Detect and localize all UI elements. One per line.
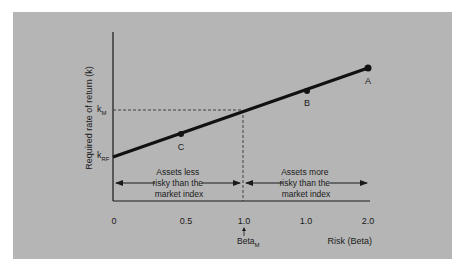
point-a-label: A: [365, 76, 371, 86]
security-market-line: [113, 68, 368, 157]
arrowhead-right-icon: [360, 180, 368, 186]
x-tick-1-5: 1.0: [300, 216, 313, 226]
x-axis-label: Risk (Beta): [327, 236, 372, 246]
y-axis-label: Required rate of return (k): [84, 66, 94, 170]
x-tick-0-5: 0.5: [180, 216, 193, 226]
arrowhead-left-icon: [115, 180, 123, 186]
beta-m-arrow-icon: [242, 227, 246, 231]
point-b: [304, 88, 310, 94]
km-label: kM: [97, 104, 107, 116]
x-tick-1-0: 1.0: [238, 216, 251, 226]
point-c: [178, 131, 184, 137]
arrowhead-left-icon: [245, 180, 253, 186]
point-c-label: C: [178, 142, 185, 152]
x-tick-0: 0: [111, 216, 116, 226]
x-tick-2-0: 2.0: [362, 216, 375, 226]
beta-m-label: BetaM: [237, 236, 260, 248]
more-risky-text: Assets more risky than the market index: [280, 167, 333, 199]
sml-chart: Required rate of return (k) kM kRF C B A…: [0, 0, 461, 273]
point-b-label: B: [304, 98, 310, 108]
arrowhead-right-icon: [233, 180, 241, 186]
less-risky-text: Assets less risky than the market index: [153, 167, 206, 199]
krf-label: kRF: [97, 150, 110, 162]
point-a: [365, 65, 372, 72]
